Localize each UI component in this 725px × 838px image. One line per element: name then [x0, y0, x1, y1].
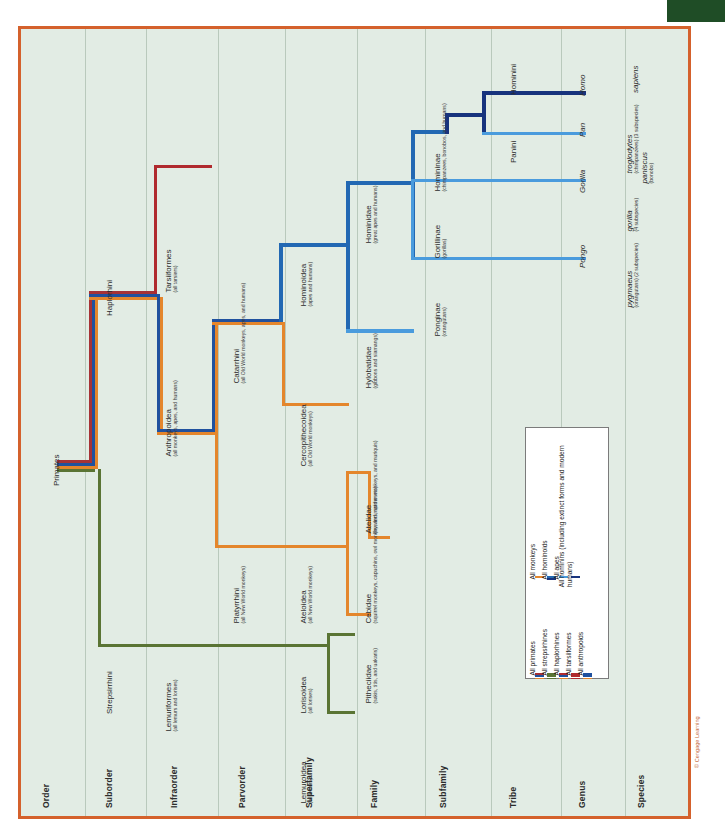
label-species-gorilla: gorilla (4 subspecies): [625, 198, 640, 232]
column-header-infraorder: Infraorder: [169, 766, 179, 808]
column-divider: [85, 29, 86, 816]
label-hominoidea: Hominoidea (apes and humans): [299, 262, 314, 307]
legend-label-all-primates: All primates: [529, 641, 537, 675]
column-header-parvorder: Parvorder: [237, 766, 247, 808]
branch-ateloidea: [282, 545, 349, 548]
branch-lemuroidea: [327, 711, 355, 714]
branch-homininae-ext: [445, 113, 485, 117]
branch-ponginae: [411, 257, 485, 260]
column-header-suborder: Suborder: [104, 769, 114, 808]
decorative-top-block: [667, 0, 725, 22]
copyright-credit: © Cengage Learning: [694, 716, 700, 768]
legend-label-all-tarsiiformes: All tarsiiformes: [565, 632, 573, 675]
riser-cercopithecoidea: [282, 322, 285, 406]
branch-tarsiiformes: [154, 165, 212, 168]
legend-label-all-hominoids: All hominoids: [541, 540, 549, 579]
column-header-subfamily: Subfamily: [438, 766, 448, 808]
branch-hominidae: [346, 181, 414, 185]
label-catarrhini: Catarrhini (all Old World monkeys, apes,…: [232, 283, 247, 384]
column-divider: [285, 29, 286, 816]
riser-platyrrhini: [215, 432, 218, 547]
branch-genus-pan: [522, 132, 586, 135]
riser-nw-families: [346, 471, 349, 616]
label-species-pygmaeus: pygmaeus (orangutans) (2 subspecies): [625, 243, 640, 308]
branch-gorillinae-ext: [445, 179, 485, 182]
column-header-superfamily: Superfamily: [304, 757, 314, 808]
legend-label-all-strepsirhines: All strepsirhines: [541, 629, 549, 676]
branch-primates-green: [57, 469, 95, 472]
column-divider: [561, 29, 562, 816]
legend-label-all-hominins: All hominins (including extinct forms an…: [558, 437, 573, 587]
label-tarsiiformes: Tarsiiformes (all tarsiers): [164, 249, 179, 292]
label-hominidae: Hominidae (great apes and humans): [364, 186, 379, 244]
label-cebidae: Cebidae (squirrel monkeys, capuchins, ow…: [364, 486, 379, 623]
label-primates: Primates: [52, 454, 61, 486]
label-species-sapiens: sapiens: [631, 65, 640, 93]
branch-genus-pongo: [482, 257, 586, 260]
riser-strepsirrhini-green: [98, 469, 101, 647]
branch-hylobatidae: [346, 329, 414, 333]
label-panini: Panini: [509, 141, 518, 163]
column-divider: [425, 29, 426, 816]
riser-hominidae-hylobatidae: [346, 181, 350, 333]
branch-panini: [482, 132, 525, 135]
column-header-order: Order: [41, 784, 51, 808]
legend-box: All monkeys All hominoids All apes All h…: [525, 427, 609, 679]
column-header-species: Species: [636, 774, 646, 808]
label-ponginae: Ponginae (orangutans): [433, 303, 448, 337]
column-header-tribe: Tribe: [508, 787, 518, 808]
label-genus-pongo: Pongo: [578, 245, 587, 268]
label-hominini: Hominini: [509, 64, 518, 95]
label-anthropoidea: Anthropoidea (all monkeys, apes, and hum…: [164, 380, 179, 456]
riser-haplorhini-orange: [95, 297, 98, 469]
branch-cercopithecoidea: [282, 403, 349, 406]
riser-tarsiiformes: [154, 165, 157, 294]
branch-genus-gorilla: [482, 179, 586, 182]
branch-haplorhini-orange: [89, 297, 157, 300]
label-species-troglodytes: troglodytes (chimpanzees) (3 subspecies): [625, 104, 640, 173]
column-header-family: Family: [369, 780, 379, 808]
branch-hominoidea: [279, 243, 349, 247]
cladogram-frame: Primates Haplorhini Strepsirrhini Tarsii…: [18, 26, 691, 819]
label-strepsirrhini: Strepsirrhini: [105, 671, 114, 714]
riser-hominini-panini: [482, 91, 486, 135]
label-pitheciidae: Pitheciidae (sakis, titis, and uakaris): [364, 648, 379, 704]
label-genus-pan: Pan: [578, 123, 587, 137]
column-divider: [357, 29, 358, 816]
riser-anthropoidea-orange: [160, 297, 163, 432]
branch-hominini: [482, 91, 525, 95]
label-species-paniscus: paniscus (bonobo): [640, 152, 655, 184]
branch-strepsirrhini: [98, 644, 157, 647]
legend-label-all-anthropoids: All anthropoids: [577, 632, 585, 676]
branch-lemuriformes-ext: [215, 644, 330, 647]
column-divider: [218, 29, 219, 816]
figure-canvas: Primates Haplorhini Strepsirrhini Tarsii…: [0, 0, 725, 838]
column-header-genus: Genus: [577, 781, 587, 808]
label-lorisoidea: Lorisoidea (all lorises): [299, 677, 314, 714]
label-gorillinae: Gorillinae (gorillas): [433, 225, 448, 259]
legend-label-all-monkeys: All monkeys: [529, 544, 537, 580]
riser-hominoidea: [279, 243, 283, 322]
label-ateloidea: Ateloidea (all New World monkeys): [299, 566, 314, 624]
legend-label-all-haplorhines: All haplorhines: [553, 632, 561, 675]
label-homininae: Homininae (chimpanzees, bonobos, and hum…: [433, 103, 448, 191]
branch-catarrhini-orange: [212, 322, 282, 325]
riser-catarrhini-orange: [215, 322, 218, 435]
label-platyrrhini: Platyrrhini (all New World monkeys): [232, 566, 247, 624]
label-cercopithecoidea: Cercopithecoidea (all Old World monkeys): [299, 404, 314, 466]
label-haplorhini: Haplorhini: [105, 280, 114, 316]
label-genus-homo: Homo: [578, 75, 587, 96]
label-genus-gorilla: Gorilla: [578, 170, 587, 193]
branch-genus-homo: [522, 91, 586, 95]
column-divider: [491, 29, 492, 816]
branch-lemuriformes: [157, 644, 215, 647]
column-divider: [146, 29, 147, 816]
label-lemuriformes: Lemuriformes (all lemurs and lorises): [164, 679, 179, 731]
branch-platyrrhini: [215, 545, 282, 548]
riser-ponginae: [411, 181, 414, 260]
label-hylobatidae: Hylobatidae (gibbons and siamangs): [364, 333, 379, 388]
branch-lorisoidea: [327, 633, 355, 636]
